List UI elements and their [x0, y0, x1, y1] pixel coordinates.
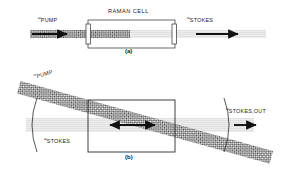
- caption-b: (b): [125, 154, 133, 160]
- label-stokes-out: ωSTOKES,OUT: [226, 108, 266, 114]
- panel-a: [30, 20, 266, 48]
- panel-b: [17, 81, 273, 164]
- label-pump-b: ωPUMP: [34, 74, 53, 80]
- caption-a: (a): [125, 48, 132, 54]
- pump-text-a: PUMP: [41, 17, 58, 23]
- cell-entrance-window: [86, 24, 91, 44]
- cell-exit-window: [172, 24, 177, 44]
- label-stokes-a: ωSTOKES: [187, 17, 213, 23]
- stokes-text-a: STOKES: [190, 17, 213, 23]
- label-stokes-b: ωSTOKES: [44, 138, 70, 144]
- stokes-out-text: STOKES,OUT: [229, 108, 266, 114]
- label-pump-a: ωPUMP: [38, 17, 57, 23]
- stokes-text-b: STOKES: [47, 138, 70, 144]
- raman-cell-figure: [0, 0, 291, 179]
- raman-cell-label: RAMAN CELL: [108, 9, 149, 15]
